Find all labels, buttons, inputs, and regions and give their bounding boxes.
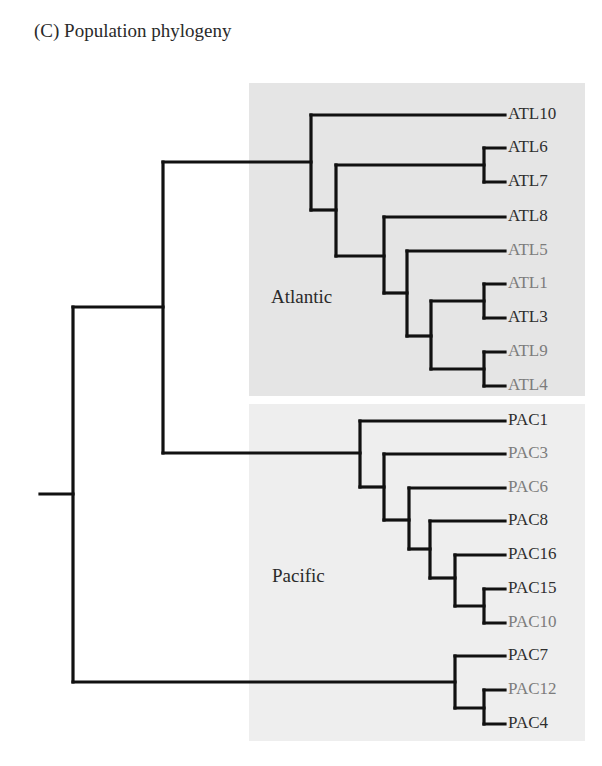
- leaf-label-pac3: PAC3: [508, 443, 548, 463]
- leaf-label-atl5: ATL5: [508, 240, 548, 260]
- leaf-label-pac10: PAC10: [508, 612, 557, 632]
- leaf-label-pac1: PAC1: [508, 410, 548, 430]
- leaf-label-atl6: ATL6: [508, 137, 548, 157]
- leaf-label-pac8: PAC8: [508, 510, 548, 530]
- leaf-label-pac15: PAC15: [508, 578, 557, 598]
- leaf-label-atl10: ATL10: [508, 104, 556, 124]
- leaf-label-pac16: PAC16: [508, 544, 557, 564]
- leaf-label-atl8: ATL8: [508, 206, 548, 226]
- leaf-label-pac4: PAC4: [508, 713, 548, 733]
- leaf-label-atl1: ATL1: [508, 273, 548, 293]
- leaf-label-atl9: ATL9: [508, 341, 548, 361]
- leaf-label-atl3: ATL3: [508, 307, 548, 327]
- leaf-label-atl7: ATL7: [508, 171, 548, 191]
- leaf-label-atl4: ATL4: [508, 375, 548, 395]
- leaf-label-pac6: PAC6: [508, 477, 548, 497]
- leaf-label-pac7: PAC7: [508, 645, 548, 665]
- leaf-label-pac12: PAC12: [508, 679, 557, 699]
